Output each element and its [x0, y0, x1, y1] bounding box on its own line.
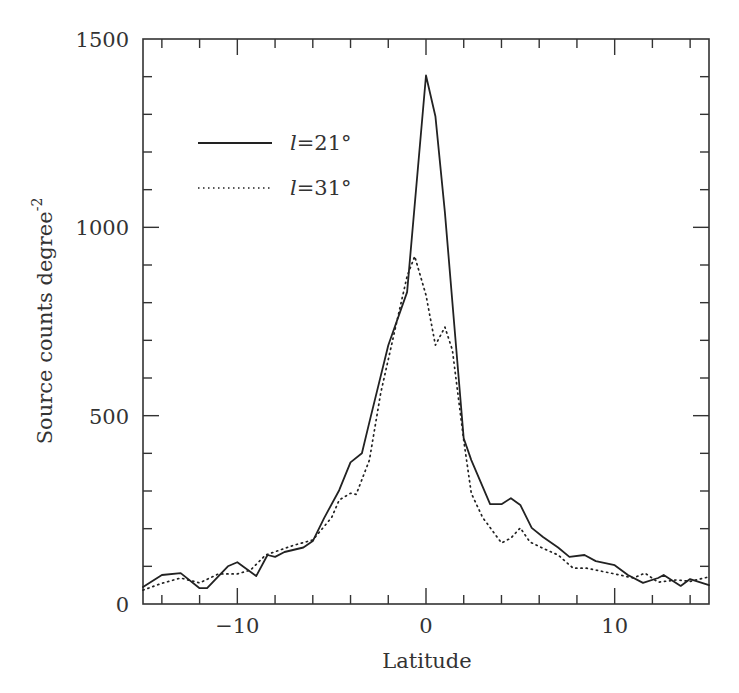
- legend-item-l21: l=21°: [198, 131, 352, 155]
- legend: l=21° l=31°: [198, 131, 352, 200]
- y-axis-title-text: Source counts degree: [33, 211, 57, 444]
- x-tick-label: 0: [419, 614, 432, 638]
- legend-label-l21: l=21°: [290, 131, 352, 155]
- y-axis-title: Source counts degree-2: [29, 198, 57, 445]
- x-tick-label: 10: [601, 614, 628, 638]
- y-tick-label: 0: [116, 593, 129, 617]
- y-tick-label: 1500: [76, 28, 129, 52]
- x-tick-label: −10: [215, 614, 259, 638]
- series-lines: [143, 76, 709, 591]
- legend-variable: l: [290, 176, 297, 200]
- y-tick-label: 1000: [76, 216, 129, 240]
- chart: −10010 050010001500 Latitude Source coun…: [0, 0, 739, 693]
- y-axis-ticks: [143, 77, 709, 567]
- x-axis-tick-labels: −10010: [215, 614, 628, 638]
- y-axis-title-superscript: -2: [29, 198, 45, 212]
- legend-value: =31°: [297, 176, 352, 200]
- legend-item-l31: l=31°: [198, 176, 352, 200]
- x-axis-title: Latitude: [382, 649, 471, 673]
- legend-value: =21°: [297, 131, 352, 155]
- x-axis-ticks: [162, 39, 690, 604]
- legend-variable: l: [290, 131, 297, 155]
- series-line-l31: [143, 256, 709, 590]
- y-axis-tick-labels: 050010001500: [76, 28, 129, 617]
- plot-frame: [143, 39, 709, 604]
- legend-label-l31: l=31°: [290, 176, 352, 200]
- series-line-l21: [143, 76, 709, 589]
- y-tick-label: 500: [89, 405, 129, 429]
- plot-border: [143, 39, 709, 604]
